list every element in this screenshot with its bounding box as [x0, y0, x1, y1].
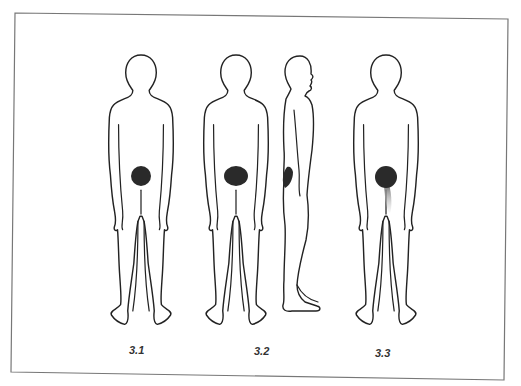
- figure-3-2-side-view: [283, 56, 320, 311]
- pain-area-3-1: [131, 166, 151, 186]
- figure-3-1-back-view: [109, 55, 174, 324]
- figure-label-3-1: 3.1: [129, 344, 144, 356]
- figure-label-3-2: 3.2: [254, 345, 269, 357]
- body-diagram: [0, 0, 521, 386]
- pain-area-3-3: [375, 166, 397, 188]
- figure-3-3-back-view: [354, 55, 419, 324]
- figure-frame: 3.1 3.2 3.3: [0, 0, 521, 386]
- figure-3-2-back-view: [204, 55, 269, 324]
- figure-label-3-3: 3.3: [375, 347, 390, 359]
- pain-area-3-2-back: [224, 166, 248, 186]
